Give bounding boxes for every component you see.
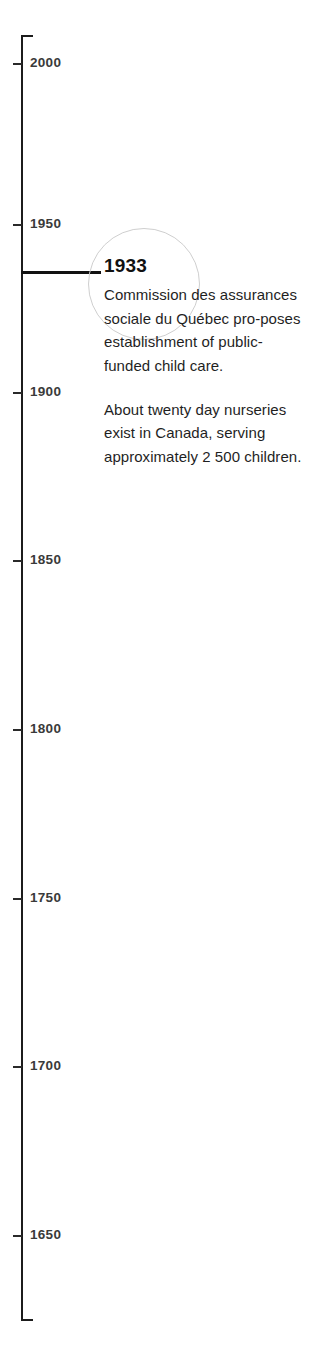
tick-label-1800: 1800 bbox=[30, 722, 61, 736]
tick-label-1950: 1950 bbox=[30, 217, 61, 231]
tick-mark-1750 bbox=[13, 898, 22, 900]
timeline-figure: 2000 1950 1900 1850 1800 1750 1700 1650 … bbox=[0, 0, 311, 1355]
event-paragraph-1: Commission des assurances sociale du Qué… bbox=[104, 283, 304, 378]
tick-mark-1950 bbox=[13, 224, 22, 226]
tick-mark-1900 bbox=[13, 392, 22, 394]
event-entry-1933: 1933 Commission des assurances sociale d… bbox=[104, 256, 304, 469]
timeline-axis-bottom-cap bbox=[21, 1319, 33, 1321]
tick-label-1750: 1750 bbox=[30, 891, 61, 905]
event-paragraph-2: About twenty day nurseries exist in Cana… bbox=[104, 398, 304, 469]
tick-mark-1800 bbox=[13, 729, 22, 731]
timeline-axis-line bbox=[21, 35, 23, 1321]
tick-label-2000: 2000 bbox=[30, 56, 61, 70]
tick-mark-1850 bbox=[13, 560, 22, 562]
tick-mark-1700 bbox=[13, 1066, 22, 1068]
tick-label-1850: 1850 bbox=[30, 553, 61, 567]
tick-label-1700: 1700 bbox=[30, 1059, 61, 1073]
tick-mark-2000 bbox=[13, 63, 22, 65]
timeline-axis-top-cap bbox=[21, 35, 33, 37]
tick-label-1650: 1650 bbox=[30, 1228, 61, 1242]
tick-mark-1650 bbox=[13, 1235, 22, 1237]
event-year-label: 1933 bbox=[104, 256, 304, 276]
tick-label-1900: 1900 bbox=[30, 385, 61, 399]
